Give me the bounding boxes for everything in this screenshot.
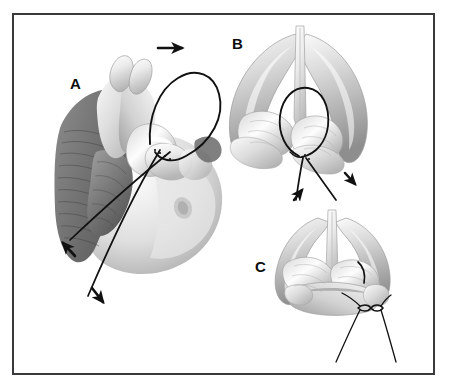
figure-root: A B C <box>0 0 451 392</box>
figure-border <box>12 13 435 375</box>
panel-label-c: C <box>255 259 266 274</box>
panel-label-b: B <box>232 36 243 51</box>
panel-label-a: A <box>70 76 81 91</box>
